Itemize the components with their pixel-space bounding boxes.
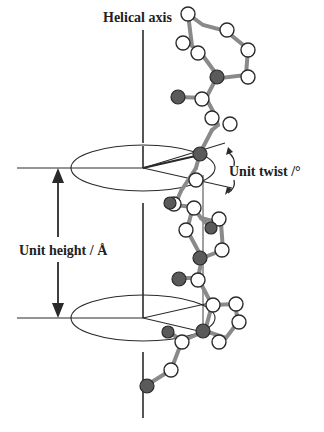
arrow-up-icon — [52, 168, 64, 183]
diagram-svg: Helical axis Unit twist /° Unit height /… — [0, 0, 324, 432]
unit-twist-label: Unit twist /° — [229, 164, 301, 179]
helix-diagram: Helical axis Unit twist /° Unit height /… — [0, 0, 324, 432]
arrow-down-icon — [52, 303, 64, 318]
twist-bold-line — [143, 155, 200, 168]
helical-axis-label: Helical axis — [103, 10, 172, 25]
unit-height-label: Unit height / Å — [19, 243, 108, 258]
